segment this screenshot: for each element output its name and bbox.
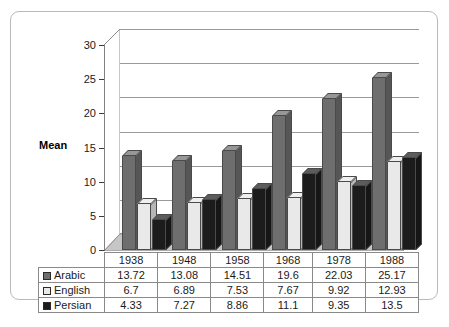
bar-front-face <box>272 116 286 250</box>
legend-swatch-icon <box>43 302 51 310</box>
bar-persian <box>302 29 316 251</box>
legend-swatch-icon <box>43 272 51 280</box>
legend-swatch-icon <box>43 287 51 295</box>
bar-front-face <box>187 203 201 250</box>
bar-front-face <box>402 158 416 250</box>
bar-front-face <box>352 186 366 250</box>
bar-side-face <box>416 152 422 250</box>
bar-english <box>387 29 401 251</box>
bar-arabic <box>172 29 186 251</box>
bar-english <box>337 29 351 251</box>
y-axis-line <box>104 29 120 251</box>
bar-front-face <box>322 99 336 250</box>
bar-group <box>122 29 166 251</box>
bar-front-face <box>387 162 401 250</box>
bar-group <box>222 29 266 251</box>
table-year-header: 1978 <box>312 253 365 268</box>
table-value-cell: 25.17 <box>365 268 418 283</box>
bar-front-face <box>222 151 236 250</box>
bar-english <box>237 29 251 251</box>
bar-group <box>322 29 366 251</box>
y-axis-title: Mean <box>39 139 67 151</box>
bar-arabic <box>122 29 136 251</box>
bar-arabic <box>222 29 236 251</box>
bar-arabic <box>322 29 336 251</box>
bar-front-face <box>122 156 136 250</box>
bar-front-face <box>372 78 386 250</box>
table-value-cell: 7.53 <box>211 283 264 298</box>
table-year-header: 1968 <box>264 253 312 268</box>
bar-persian <box>252 29 266 251</box>
figure-frame: 051015202530 Mean 1938194819581968197819… <box>10 11 438 300</box>
legend-label: Persian <box>54 299 91 311</box>
table-year-header: 1938 <box>105 253 158 268</box>
table-value-cell: 19.6 <box>264 268 312 283</box>
table-value-cell: 6.7 <box>105 283 158 298</box>
table-value-cell: 6.89 <box>158 283 211 298</box>
legend-item-english: English <box>39 283 105 298</box>
legend-label: Arabic <box>54 269 85 281</box>
bar-front-face <box>287 198 301 250</box>
bar-persian <box>202 29 216 251</box>
table-row: English6.76.897.537.679.9212.93 <box>39 283 419 298</box>
y-tick-label: 15 <box>84 142 96 153</box>
table-value-cell: 13.08 <box>158 268 211 283</box>
table-value-cell: 12.93 <box>365 283 418 298</box>
bar-group <box>272 29 316 251</box>
y-tick-label: 5 <box>90 210 96 221</box>
chart-data-table: 193819481958196819781988Arabic13.7213.08… <box>38 252 419 313</box>
figure-caption <box>0 311 449 327</box>
bar-arabic <box>272 29 286 251</box>
table-year-header: 1948 <box>158 253 211 268</box>
bar-group <box>372 29 416 251</box>
bar-front-face <box>202 200 216 250</box>
table-year-header: 1988 <box>365 253 418 268</box>
bar-english <box>137 29 151 251</box>
bar-front-face <box>302 174 316 250</box>
y-tick-label: 10 <box>84 176 96 187</box>
table-value-cell: 7.67 <box>264 283 312 298</box>
table-value-cell: 22.03 <box>312 268 365 283</box>
bar-front-face <box>172 161 186 250</box>
legend-label: English <box>54 284 90 296</box>
y-tick-label: 30 <box>84 40 96 51</box>
bar-front-face <box>152 220 166 250</box>
table-row: Arabic13.7213.0814.5119.622.0325.17 <box>39 268 419 283</box>
y-tick-label: 25 <box>84 74 96 85</box>
bar-front-face <box>337 182 351 250</box>
chart-plot-area: 051015202530 <box>104 29 419 251</box>
bar-front-face <box>237 199 251 250</box>
bar-persian <box>402 29 416 251</box>
bar-persian <box>152 29 166 251</box>
legend-item-arabic: Arabic <box>39 268 105 283</box>
table-value-cell: 14.51 <box>211 268 264 283</box>
bar-front-face <box>252 189 266 250</box>
bar-persian <box>352 29 366 251</box>
table-year-header: 1958 <box>211 253 264 268</box>
y-tick-label: 20 <box>84 108 96 119</box>
table-corner-cell <box>39 253 105 268</box>
bar-front-face <box>137 204 151 250</box>
bar-group <box>172 29 216 251</box>
table-value-cell: 9.92 <box>312 283 365 298</box>
chart-figure: 051015202530 Mean 1938194819581968197819… <box>0 0 449 327</box>
table-year-header-row: 193819481958196819781988 <box>39 253 419 268</box>
table-value-cell: 13.72 <box>105 268 158 283</box>
bar-english <box>287 29 301 251</box>
bar-english <box>187 29 201 251</box>
bar-arabic <box>372 29 386 251</box>
